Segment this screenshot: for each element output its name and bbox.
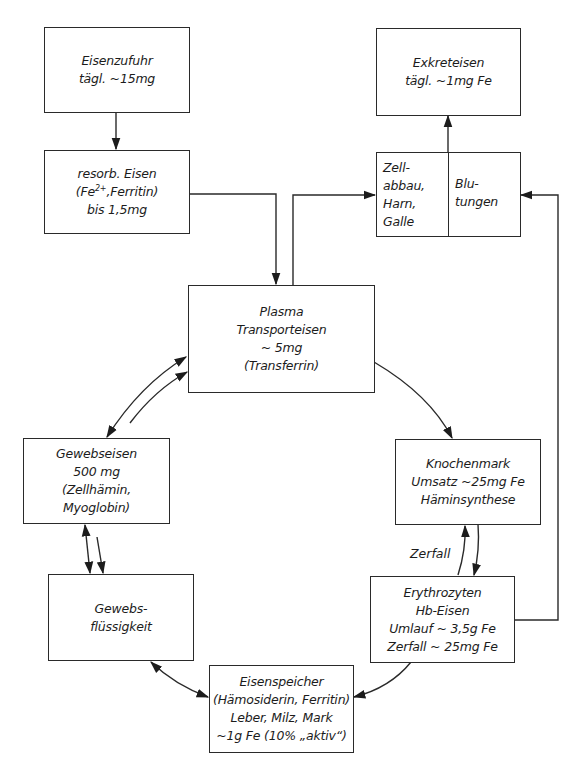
arrow-tissue-fluid-bidirectional [85, 525, 90, 573]
tissue-fluid-line-2: flüssigkeit [90, 618, 151, 636]
losses-right-line-2: tungen [455, 193, 498, 211]
absorbed-line-2: (Fe2+,Ferritin) [76, 183, 158, 201]
plasma-line-4: (Transferrin) [244, 357, 319, 375]
marrow-line-3: Häminsynthese [421, 491, 516, 509]
storage-line-4: ~1g Fe (10% „aktiv“) [216, 727, 346, 745]
excretion-line-2: tägl. ~1mg Fe [405, 72, 492, 90]
erythrocytes-line-3: Umlauf ~ 3,5g Fe [389, 620, 496, 638]
marrow-line-1: Knochenmark [426, 455, 510, 473]
node-plasma: Plasma Transporteisen ~ 5mg (Transferrin… [188, 285, 375, 393]
erythrocytes-line-2: Hb-Eisen [416, 602, 470, 620]
node-iron-storage: Eisenspeicher (Hämosiderin, Ferritin) Le… [209, 665, 354, 753]
losses-left-line-4: Galle [383, 213, 414, 231]
arrow-plasma-to-marrow [374, 362, 452, 438]
arrow-marrow-to-erythrocytes [474, 524, 479, 575]
storage-line-1: Eisenspeicher [239, 673, 323, 691]
node-absorbed-iron: resorb. Eisen (Fe2+,Ferritin) bis 1,5mg [44, 150, 190, 234]
plasma-line-1: Plasma [260, 303, 304, 321]
arrow-erythrocytes-to-storage [354, 662, 411, 697]
erythrocytes-line-1: Erythrozyten [403, 584, 481, 602]
arrow-absorbed-to-plasma [190, 194, 276, 284]
arrow-tissue-to-plasma [130, 372, 187, 423]
losses-right-line-1: Blu- [455, 175, 479, 193]
intake-line-2: tägl. ~15mg [79, 70, 155, 88]
edge-label-breakdown: Zerfall [410, 546, 450, 561]
losses-cell-bleeding: Blu- tungen [449, 153, 520, 236]
tissue-iron-line-3: (Zellhämin, [62, 481, 131, 499]
arrow-plasma-to-losses [293, 195, 375, 285]
node-excretion: Exkreteisen tägl. ~1mg Fe [376, 28, 521, 116]
node-bone-marrow: Knochenmark Umsatz ~25mg Fe Häminsynthes… [395, 439, 541, 525]
excretion-line-1: Exkreteisen [413, 54, 484, 72]
tissue-fluid-line-1: Gewebs- [95, 600, 148, 618]
tissue-iron-line-1: Gewebseisen [56, 445, 137, 463]
intake-line-1: Eisenzufuhr [81, 52, 152, 70]
node-intake: Eisenzufuhr tägl. ~15mg [44, 27, 190, 113]
arrow-fluid-storage-bidirectional [151, 662, 208, 697]
arrow-tissue-to-fluid [97, 537, 103, 573]
losses-left-line-1: Zell- [383, 159, 410, 177]
losses-left-line-2: abbau, [383, 177, 425, 195]
storage-line-3: Leber, Milz, Mark [231, 709, 333, 727]
arrow-erythrocytes-to-marrow [458, 526, 465, 575]
erythrocytes-line-4: Zerfall ~ 25mg Fe [387, 638, 497, 656]
node-tissue-iron: Gewebseisen 500 mg (Zellhämin, Myoglobin… [23, 438, 170, 524]
node-losses: Zell- abbau, Harn, Galle Blu- tungen [376, 152, 521, 237]
node-erythrocytes: Erythrozyten Hb-Eisen Umlauf ~ 3,5g Fe Z… [370, 576, 515, 663]
absorbed-line-3: bis 1,5mg [87, 201, 147, 219]
tissue-iron-line-2: 500 mg [73, 463, 120, 481]
losses-left-line-3: Harn, [383, 195, 416, 213]
absorbed-superscript: 2+ [95, 184, 106, 193]
arrow-plasma-tissue-bidirectional [107, 357, 186, 437]
marrow-line-2: Umsatz ~25mg Fe [411, 473, 524, 491]
plasma-line-2: Transporteisen [236, 321, 326, 339]
losses-cell-breakdown: Zell- abbau, Harn, Galle [377, 153, 449, 236]
arrow-erythrocytes-to-bleeding [514, 195, 558, 620]
tissue-iron-line-4: Myoglobin) [63, 499, 130, 517]
absorbed-line-1: resorb. Eisen [78, 165, 157, 183]
node-tissue-fluid: Gewebs- flüssigkeit [48, 574, 194, 661]
storage-line-2: (Hämosiderin, Ferritin) [213, 691, 350, 709]
plasma-line-3: ~ 5mg [261, 339, 303, 357]
